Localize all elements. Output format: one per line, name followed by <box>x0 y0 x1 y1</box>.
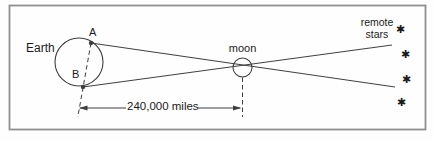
distance-label: 240,000 miles <box>127 100 198 112</box>
remote-stars-label: remote stars <box>353 16 401 40</box>
point-b-label: B <box>72 68 79 80</box>
arrowhead-left-icon <box>79 105 88 110</box>
point-a-dot <box>89 41 93 45</box>
star-icon: ✱ <box>402 74 411 85</box>
point-a-label: A <box>89 26 96 38</box>
star-icon: ✱ <box>396 24 405 35</box>
point-b-dot <box>81 85 85 89</box>
remote-stars-label-line1: remote <box>353 16 401 28</box>
moon-label: moon <box>220 42 265 54</box>
parallax-figure: Earth A B moon 240,000 miles remote star… <box>0 0 435 141</box>
star-icon: ✱ <box>397 97 406 108</box>
moon-circle <box>233 58 252 77</box>
earth-label: Earth <box>26 41 55 55</box>
baseline-dashed-line <box>78 43 91 117</box>
star-icon: ✱ <box>401 49 410 60</box>
arrowhead-right-icon <box>233 105 242 110</box>
remote-stars-label-line2: stars <box>353 28 401 40</box>
